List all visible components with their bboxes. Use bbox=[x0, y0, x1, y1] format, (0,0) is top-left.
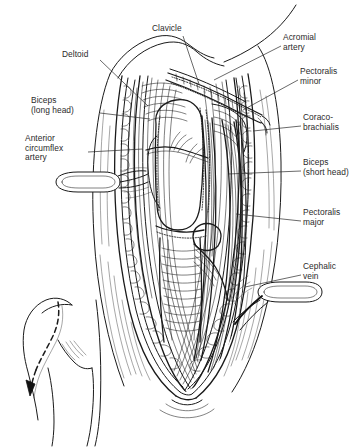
label-biceps-long-head: Biceps (long head) bbox=[31, 96, 74, 115]
label-cephalic-vein: Cephalic vein bbox=[303, 262, 336, 281]
wound-margins bbox=[100, 74, 274, 418]
leader-coracobrachialis bbox=[253, 126, 301, 131]
label-pectoralis-minor: Pectoralis minor bbox=[300, 67, 337, 86]
inset-body-edge bbox=[95, 300, 101, 446]
label-anterior-circumflex-artery: Anterior circumflex artery bbox=[25, 134, 63, 163]
deep-structures bbox=[146, 100, 247, 376]
label-clavicle: Clavicle bbox=[152, 24, 182, 34]
label-biceps-short-head: Biceps (short head) bbox=[303, 158, 349, 177]
label-pectoralis-major: Pectoralis major bbox=[303, 208, 340, 227]
incision-inset bbox=[23, 298, 93, 446]
label-acromial-artery: Acromial artery bbox=[283, 33, 316, 52]
deltoid-muscle bbox=[133, 76, 198, 392]
label-deltoid: Deltoid bbox=[62, 50, 88, 60]
label-coracobrachialis: Coraco- brachialis bbox=[303, 113, 339, 132]
